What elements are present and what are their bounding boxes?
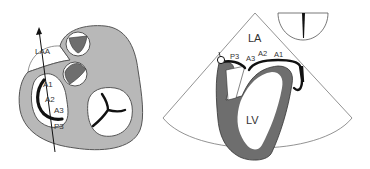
label-laa: LAA xyxy=(35,47,51,56)
label-la: LA xyxy=(248,32,262,44)
left-panel-short-axis: LAA A1 A2 A3 P3 xyxy=(19,26,143,152)
label-a1-right: A1 xyxy=(274,50,283,59)
annulus-marker xyxy=(217,56,224,63)
label-p3-left: P3 xyxy=(54,122,64,131)
label-a3-left: A3 xyxy=(54,106,64,115)
right-panel-echo-sector: LA LV P3 A3 A2 A1 xyxy=(163,13,352,160)
label-a2-left: A2 xyxy=(45,95,55,104)
label-a2-right: A2 xyxy=(258,49,267,58)
tricuspid-valve-orifice xyxy=(88,88,133,137)
label-lv: LV xyxy=(246,114,259,126)
label-p3-right: P3 xyxy=(230,52,239,61)
label-a3-right: A3 xyxy=(246,54,255,63)
scan-plane-arrowhead xyxy=(36,27,42,35)
diagram-canvas: LAA A1 A2 A3 P3 LA LV P3 A3 A2 A1 xyxy=(0,0,370,169)
label-a1-left: A1 xyxy=(43,80,53,89)
aortic-root-wall xyxy=(302,66,303,82)
